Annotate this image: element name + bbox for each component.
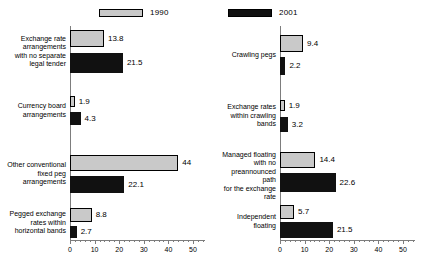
x-axis-minor-tick [114, 240, 115, 242]
chart-figure: 1990 0102030405013.821.5Exchange ratearr… [0, 0, 428, 265]
bar-2001 [70, 226, 77, 238]
category-label-line: within crawling [216, 112, 276, 120]
x-axis-tick-label: 50 [399, 246, 407, 253]
x-axis-minor-tick [149, 240, 150, 242]
x-axis-major-tick [403, 240, 404, 244]
x-axis-tick-label: 10 [91, 246, 99, 253]
x-axis-major-tick [378, 240, 379, 244]
x-axis-minor-tick [100, 240, 101, 242]
x-axis-tick-label: 0 [68, 246, 72, 253]
category-label-line: fixed peg [2, 170, 66, 178]
category-label-line: rate [216, 193, 276, 201]
x-axis-minor-tick [339, 240, 340, 242]
bar-value-label-2001: 22.1 [128, 181, 144, 189]
x-axis-tick-label: 30 [140, 246, 148, 253]
x-axis-minor-tick [314, 240, 315, 242]
bar-value-label-1990: 1.9 [79, 98, 90, 106]
left-chart-panel: 1990 0102030405013.821.5Exchange ratearr… [0, 0, 214, 265]
x-axis-minor-tick [90, 240, 91, 242]
bar-value-label-1990: 1.9 [289, 102, 300, 110]
x-axis-minor-tick [383, 240, 384, 242]
bar-value-label-2001: 22.6 [340, 179, 356, 187]
bar-2001 [70, 112, 81, 125]
bar-value-label-2001: 3.2 [292, 121, 303, 129]
category-label-line: Exchange rates [216, 103, 276, 111]
x-axis-minor-tick [300, 240, 301, 242]
x-axis-major-tick [70, 240, 71, 244]
bar-2001 [280, 117, 288, 132]
bar-value-label-2001: 21.5 [337, 226, 353, 234]
x-axis-minor-tick [75, 240, 76, 242]
x-axis-minor-tick [178, 240, 179, 242]
bar-1990 [70, 208, 92, 222]
x-axis-minor-tick [413, 240, 414, 242]
category-label: Independentfloating [216, 213, 276, 230]
bar-value-label-1990: 9.4 [307, 40, 318, 48]
x-axis-major-tick [119, 240, 120, 244]
x-axis-minor-tick [393, 240, 394, 242]
x-axis-minor-tick [334, 240, 335, 242]
x-axis-minor-tick [364, 240, 365, 242]
bar-value-label-1990: 5.7 [298, 208, 309, 216]
x-axis-tick-label: 40 [164, 246, 172, 253]
x-axis-tick-label: 20 [115, 246, 123, 253]
x-axis-minor-tick [183, 240, 184, 242]
bar-2001 [70, 176, 124, 193]
category-label-line: Pegged exchange [2, 210, 66, 218]
category-label: Managed floatingwith nopreannounced path… [216, 151, 276, 201]
category-label-line: floating [216, 222, 276, 230]
x-axis-minor-tick [173, 240, 174, 242]
x-axis-minor-tick [295, 240, 296, 242]
x-axis-tick-label: 40 [374, 246, 382, 253]
bar-1990 [280, 152, 315, 168]
x-axis-minor-tick [373, 240, 374, 242]
x-axis-minor-tick [285, 240, 286, 242]
category-label-line: for the exchange [216, 185, 276, 193]
right-plot-area: 010203040509.42.2Crawling pegs1.93.2Exch… [214, 0, 428, 265]
x-axis-minor-tick [369, 240, 370, 242]
x-axis-minor-tick [408, 240, 409, 242]
bar-value-label-1990: 14.4 [319, 156, 335, 164]
x-axis-minor-tick [139, 240, 140, 242]
x-axis-tick-label: 30 [350, 246, 358, 253]
x-axis-tick-label: 10 [301, 246, 309, 253]
category-label-line: Crawling pegs [216, 51, 276, 59]
bar-value-label-1990: 8.8 [96, 211, 107, 219]
bar-1990 [280, 35, 303, 52]
x-axis-minor-tick [85, 240, 86, 242]
x-axis-major-tick [305, 240, 306, 244]
x-axis-major-tick [354, 240, 355, 244]
x-axis-minor-tick [80, 240, 81, 242]
x-axis-minor-tick [124, 240, 125, 242]
x-axis-major-tick [329, 240, 330, 244]
category-label: Exchange ratearrangementswith no separat… [2, 35, 66, 69]
x-axis-minor-tick [104, 240, 105, 242]
x-axis-tick-label: 50 [189, 246, 197, 253]
category-label: Other conventionalfixed pegarrangements [2, 161, 66, 186]
x-axis-major-tick [144, 240, 145, 244]
category-label: Crawling pegs [216, 51, 276, 59]
category-label-line: Managed floating [216, 151, 276, 159]
x-axis-minor-tick [109, 240, 110, 242]
x-axis-major-tick [193, 240, 194, 244]
category-label-line: legal tender [2, 60, 66, 68]
bar-1990 [70, 155, 178, 171]
x-axis-major-tick [280, 240, 281, 244]
bar-value-label-2001: 2.7 [81, 228, 92, 236]
bar-value-label-2001: 4.3 [85, 115, 96, 123]
x-axis-minor-tick [344, 240, 345, 242]
right-chart-panel: 2001 010203040509.42.2Crawling pegs1.93.… [214, 0, 428, 265]
category-label-line: Independent [216, 213, 276, 221]
bar-2001 [70, 53, 123, 73]
bar-2001 [280, 173, 336, 192]
bar-1990 [70, 30, 104, 47]
x-axis-tick-label: 20 [325, 246, 333, 253]
x-axis-minor-tick [324, 240, 325, 242]
x-axis-minor-tick [188, 240, 189, 242]
x-axis-minor-tick [290, 240, 291, 242]
x-axis-minor-tick [398, 240, 399, 242]
category-label: Currency boardarrangements [2, 102, 66, 119]
category-label: Exchange rateswithin crawlingbands [216, 103, 276, 128]
x-axis-minor-tick [154, 240, 155, 242]
category-label-line: preannounced path [216, 168, 276, 185]
